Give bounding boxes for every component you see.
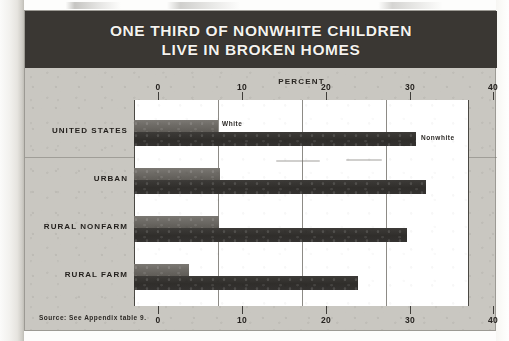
page-left-margin-shadow [0,0,24,341]
x-tick-label-bottom-20: 20 [321,315,331,325]
x-tick-label-top-0: 0 [155,82,160,92]
chart-title-banner: ONE THIRD OF NONWHITE CHILDREN LIVE IN B… [25,11,497,68]
x-tick-top-40 [493,92,494,100]
category-label-united-states: UNITED STATES [25,126,128,135]
gridline-30 [386,100,387,306]
chart-title-line-2: LIVE IN BROKEN HOMES [162,40,361,59]
x-tick-label-top-10: 10 [237,82,247,92]
x-tick-top-10 [242,92,243,100]
category-label-urban: URBAN [25,174,128,183]
bar-rural-nonfarm-nonwhite [134,228,407,242]
scanned-page: ONE THIRD OF NONWHITE CHILDREN LIVE IN B… [0,0,509,341]
scan-smudge-artifact-1 [276,160,320,162]
chart-title-line-1: ONE THIRD OF NONWHITE CHILDREN [110,21,412,40]
bar-urban-nonwhite [134,180,426,194]
x-tick-label-top-30: 30 [405,82,415,92]
bar-rural-farm-white [134,264,189,276]
series-annotation-white: White [222,120,242,127]
x-axis-title-label: PERCENT [278,77,325,86]
x-tick-bottom-20 [326,306,327,314]
scan-smudge-artifact-2 [346,159,382,161]
bar-rural-farm-nonwhite [134,276,358,290]
x-tick-bottom-30 [410,306,411,314]
page-right-margin [496,0,509,341]
scan-speckle-artifact [38,2,498,9]
x-tick-label-bottom-40: 40 [488,315,498,325]
gridline-40 [468,100,469,306]
category-label-rural-nonfarm: RURAL NONFARM [25,222,128,231]
x-tick-label-top-20: 20 [321,82,331,92]
x-tick-top-0 [158,92,159,100]
x-tick-bottom-10 [242,306,243,314]
plot-area: White Nonwhite [134,100,469,306]
x-axis-title: PERCENT [134,70,469,88]
x-tick-label-bottom-10: 10 [237,315,247,325]
chart-figure: ONE THIRD OF NONWHITE CHILDREN LIVE IN B… [24,10,496,331]
bar-urban-white [134,168,220,180]
bar-united-states-white [134,120,218,132]
x-tick-label-bottom-30: 30 [405,315,415,325]
chart-body: PERCENT 0 10 20 30 40 0 10 20 30 [25,68,497,332]
x-tick-top-30 [410,92,411,100]
bar-united-states-nonwhite [134,132,416,146]
x-tick-top-20 [326,92,327,100]
category-label-rural-farm: RURAL FARM [25,270,128,279]
x-tick-bottom-0 [158,306,159,314]
bar-rural-nonfarm-white [134,216,219,228]
x-tick-bottom-40 [493,306,494,314]
source-note: Source: See Appendix table 9. [39,314,146,321]
x-tick-label-bottom-0: 0 [155,315,160,325]
series-annotation-nonwhite: Nonwhite [421,134,455,141]
x-tick-label-top-40: 40 [488,82,498,92]
